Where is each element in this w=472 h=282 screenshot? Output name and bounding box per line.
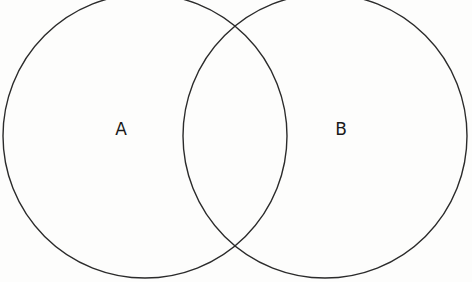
venn-diagram: A B <box>0 0 472 282</box>
set-a-label: A <box>115 119 127 139</box>
venn-diagram-canvas: A B <box>0 0 472 282</box>
set-b-label: B <box>335 119 347 139</box>
set-b-circle <box>183 0 467 278</box>
set-a-circle <box>3 0 287 278</box>
